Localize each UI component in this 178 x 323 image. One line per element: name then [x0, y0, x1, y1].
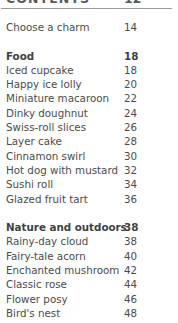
table-of-contents: CONTENTS 12 Choose a charm14Food18Iced c… [0, 0, 178, 320]
toc-entry-page-number: 18 [124, 63, 137, 77]
toc-entry-label: Happy ice lolly [6, 77, 124, 91]
page-header-row: CONTENTS 12 [6, 0, 172, 6]
toc-entry[interactable]: Hot dog with mustard32 [0, 163, 178, 177]
toc-entry[interactable]: Rainy-day cloud38 [0, 234, 178, 248]
toc-entry-label: Bird's nest [6, 306, 124, 320]
toc-entry-page-number: 42 [124, 263, 137, 277]
toc-entry-label: Enchanted mushroom [6, 263, 124, 277]
toc-section-spacer [0, 34, 178, 48]
toc-entry-label: Iced cupcake [6, 63, 124, 77]
toc-section-heading[interactable]: Food18 [0, 49, 178, 63]
toc-entry[interactable]: Happy ice lolly20 [0, 77, 178, 91]
toc-entry[interactable]: Choose a charm14 [0, 20, 178, 34]
toc-entry-label: Dinky doughnut [6, 106, 124, 120]
toc-entry[interactable]: Sushi roll34 [0, 177, 178, 191]
toc-entry-label: Flower posy [6, 292, 124, 306]
toc-entry[interactable]: Glazed fruit tart36 [0, 192, 178, 206]
toc-entry-label: Sushi roll [6, 177, 124, 191]
toc-section-label: Food [6, 49, 124, 63]
page-header-number: 12 [124, 0, 141, 6]
page-title: CONTENTS [6, 0, 124, 6]
page-header: CONTENTS 12 [0, 0, 178, 6]
toc-entry[interactable]: Enchanted mushroom42 [0, 263, 178, 277]
toc-entry-label: Cinnamon swirl [6, 149, 124, 163]
toc-entry-page-number: 20 [124, 77, 137, 91]
toc-section-heading[interactable]: Nature and outdoors38 [0, 220, 178, 234]
toc-entry-label: Hot dog with mustard [6, 163, 124, 177]
toc-entry[interactable]: Flower posy46 [0, 292, 178, 306]
toc-section-spacer [0, 206, 178, 220]
toc-entry-page-number: 28 [124, 134, 137, 148]
toc-entry-page-number: 22 [124, 91, 137, 105]
toc-section-label: Nature and outdoors [6, 220, 124, 234]
toc-entry-label: Miniature macaroon [6, 91, 124, 105]
toc-entry-page-number: 38 [124, 234, 137, 248]
toc-entry[interactable]: Fairy-tale acorn40 [0, 249, 178, 263]
toc-entry-page-number: 32 [124, 163, 137, 177]
toc-entry-page-number: 46 [124, 292, 137, 306]
toc-entry-label: Fairy-tale acorn [6, 249, 124, 263]
toc-entry-page-number: 26 [124, 120, 137, 134]
toc-entry-label: Classic rose [6, 277, 124, 291]
toc-entry-label: Glazed fruit tart [6, 192, 124, 206]
toc-entry[interactable]: Iced cupcake18 [0, 63, 178, 77]
toc-entry-label: Rainy-day cloud [6, 234, 124, 248]
toc-entry-page-number: 48 [124, 306, 137, 320]
toc-entry[interactable]: Layer cake28 [0, 134, 178, 148]
toc-entry[interactable]: Classic rose44 [0, 277, 178, 291]
toc-entry-label: Layer cake [6, 134, 124, 148]
toc-entry[interactable]: Dinky doughnut24 [0, 106, 178, 120]
toc-entry-page-number: 24 [124, 106, 137, 120]
toc-entry-label: Choose a charm [6, 20, 124, 34]
toc-entry-label: Swiss-roll slices [6, 120, 124, 134]
toc-entry[interactable]: Cinnamon swirl30 [0, 149, 178, 163]
toc-rows: Choose a charm14Food18Iced cupcake18Happ… [0, 9, 178, 320]
toc-entry-page-number: 14 [124, 20, 137, 34]
toc-entry-page-number: 40 [124, 249, 137, 263]
toc-entry-page-number: 34 [124, 177, 137, 191]
toc-entry[interactable]: Swiss-roll slices26 [0, 120, 178, 134]
toc-entry[interactable]: Miniature macaroon22 [0, 91, 178, 105]
toc-entry-page-number: 30 [124, 149, 137, 163]
toc-entry-page-number: 36 [124, 192, 137, 206]
toc-section-page-number: 38 [124, 220, 138, 234]
toc-entry[interactable]: Bird's nest48 [0, 306, 178, 320]
toc-section-page-number: 18 [124, 49, 138, 63]
toc-entry-page-number: 44 [124, 277, 137, 291]
